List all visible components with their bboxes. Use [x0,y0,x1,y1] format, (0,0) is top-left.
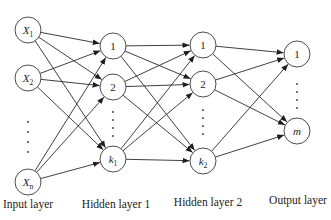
edge-xn-h1_k1 [41,163,100,179]
neuron-xn: Xn [15,169,41,195]
neuron-om: m [284,118,310,144]
ellipsis-dot [112,127,114,129]
edge-xn-h1_2 [37,97,104,172]
neuron-h1_2: 2 [100,74,126,100]
ellipsis-dot [27,121,29,123]
neuron-h1_k1: k1 [100,146,126,172]
neuron-label: 1 [110,40,116,52]
edge-h2_k2-om [215,135,284,157]
ellipsis-dot [296,107,298,109]
neuron-h2_1: 1 [190,32,216,58]
hidden-layer-1-label: Hidden layer 1 [82,198,150,210]
edge-x2-h1_k1 [37,87,103,150]
input-layer-label: Input layer [3,198,53,210]
ellipsis-dot [112,111,114,113]
neuron-h2_k2: k2 [190,148,216,174]
edge-xn-h1_1 [35,57,106,171]
ellipsis-dot [202,109,204,111]
ellipsis-dot [296,99,298,101]
edge-h2_2-o1 [215,58,284,80]
edge-x1-h1_1 [41,32,100,43]
neuron-x1: X1 [15,17,41,43]
neuron-o1: 1 [284,41,310,67]
ellipsis-dot [202,133,204,135]
neuron-h2_2: 2 [190,71,216,97]
ellipsis-dot [202,117,204,119]
neuron-label: 2 [200,78,206,90]
network-canvas: X1X2Xn12k112k21m [0,0,331,220]
edge-h2_1-om [213,54,287,122]
ellipsis-dot [112,135,114,137]
ellipsis-dot [27,151,29,153]
edge-h1_k1-h2_2 [123,93,193,151]
output-layer-label: Output layer [269,194,327,206]
edge-h1_1-h2_1 [126,45,190,46]
hidden-layer-2-label: Hidden layer 2 [174,196,242,208]
neuron-x2: X2 [15,65,41,91]
ellipsis-dot [296,91,298,93]
edge-x1-h1_2 [39,37,102,79]
ellipsis-dot [112,119,114,121]
edge-x2-h1_2 [41,79,100,85]
edge-h1_1-h2_k2 [121,56,195,150]
ellipsis-dot [202,125,204,127]
edge-h1_2-h2_2 [126,84,190,86]
connections [35,32,288,178]
neuron-label: m [293,125,301,137]
neuron-label: 2 [110,81,116,93]
edge-h2_1-o1 [216,46,284,52]
ellipsis-dot [27,131,29,133]
ellipsis-dot [296,83,298,85]
neuron-label: 1 [200,39,206,51]
ellipsis-dot [27,141,29,143]
neural-network-diagram: X1X2Xn12k112k21m Input layer Hidden laye… [0,0,331,220]
neurons: X1X2Xn12k112k21m [15,17,310,195]
edge-h1_k1-h2_k2 [126,159,190,160]
neuron-label: 1 [294,48,300,60]
neuron-h1_1: 1 [100,33,126,59]
